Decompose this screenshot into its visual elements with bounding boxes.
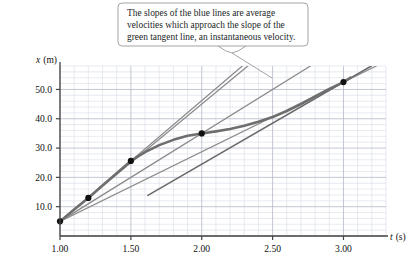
y-tick-label: 30.0 xyxy=(35,142,52,153)
y-axis-label: x(m) xyxy=(35,55,57,66)
data-point-2 xyxy=(128,158,134,164)
x-axis-label: t(s) xyxy=(390,232,406,243)
y-tick-label: 50.0 xyxy=(35,84,52,95)
callout-line-3: green tangent line, an instantaneous vel… xyxy=(127,32,295,42)
data-point-3 xyxy=(199,130,205,136)
y-tick-label: 40.0 xyxy=(35,113,52,124)
x-tick-label: 2.00 xyxy=(193,243,210,254)
data-point-1 xyxy=(85,195,91,201)
y-tick-label: 20.0 xyxy=(35,172,52,183)
data-point-4 xyxy=(340,79,346,85)
y-tick-label: 10.0 xyxy=(35,201,52,212)
callout-line-2: velocities which approach the slope of t… xyxy=(127,20,285,30)
position-time-graph: 10.020.030.040.050.0 1.001.502.002.503.0… xyxy=(0,0,417,270)
x-tick-label: 2.50 xyxy=(264,243,281,254)
callout-line-1: The slopes of the blue lines are average xyxy=(127,8,275,18)
x-tick-label: 3.00 xyxy=(335,243,352,254)
x-tick-label: 1.00 xyxy=(52,243,69,254)
x-tick-label: 1.50 xyxy=(122,243,139,254)
